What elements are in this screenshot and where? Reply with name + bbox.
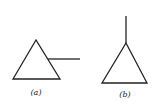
- panel-label-b: (b): [119, 90, 130, 99]
- panel-label-a: (a): [30, 88, 41, 97]
- triangle-b: [102, 43, 147, 83]
- figure-canvas: (a) (b): [0, 0, 156, 105]
- panel-b: (b): [102, 16, 147, 99]
- panel-a: (a): [13, 40, 80, 97]
